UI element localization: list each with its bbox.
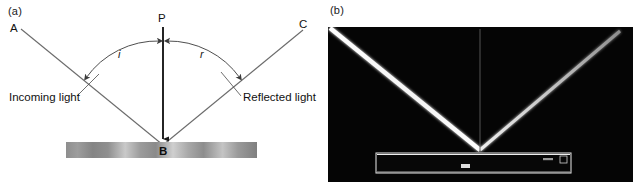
angle-of-reflection-label: r xyxy=(200,48,204,60)
photo-mirror-speck-left xyxy=(461,164,470,168)
point-label-p: P xyxy=(158,12,166,24)
panel-b-label: (b) xyxy=(330,4,344,16)
point-label-a: A xyxy=(10,22,18,34)
photo-mirror-speck-right xyxy=(543,158,553,160)
photo-mirror-outline xyxy=(376,153,571,173)
point-label-c: C xyxy=(299,18,307,30)
figure-container: (a) xyxy=(0,0,639,189)
angle-i-arc xyxy=(86,41,160,78)
angle-of-incidence-label: i xyxy=(118,48,120,60)
reflected-ray-line xyxy=(163,30,303,145)
point-label-b: B xyxy=(159,145,167,157)
incoming-light-caption: Incoming light xyxy=(9,91,80,103)
incoming-ray-line xyxy=(21,29,163,145)
panel-b-photograph: (b) xyxy=(320,0,639,189)
photo-svg xyxy=(328,27,633,182)
panel-a-ray-diagram: (a) xyxy=(0,0,320,189)
laser-reflection-photo xyxy=(328,27,633,182)
reflected-light-caption: Reflected light xyxy=(243,91,316,103)
